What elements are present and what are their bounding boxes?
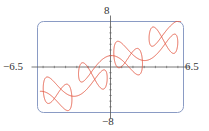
x-min-label: −6.5 (3, 61, 23, 72)
y-max-label: 8 (104, 5, 110, 16)
y-min-label: −8 (102, 116, 114, 127)
x-max-label: 6.5 (185, 61, 199, 72)
plot-area (0, 0, 209, 131)
